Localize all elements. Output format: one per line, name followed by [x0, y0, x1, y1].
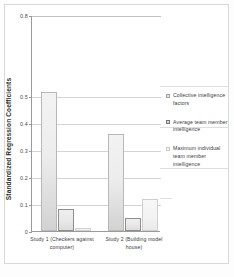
ytick-label-0.5: 0.5 [20, 94, 28, 100]
legend-label-maximum: Maximum individual team member intellige… [173, 145, 220, 167]
tick-0.1 [29, 205, 32, 206]
scan-rule-1 [160, 86, 228, 87]
legend-item-average-member-intelligence: Average team member intelligence [166, 119, 228, 135]
category-label-study2-line1: Study 2 (Building model [100, 236, 168, 244]
bar-study2-collective-intelligence [108, 134, 124, 231]
ytick-label-0.4: 0.4 [20, 121, 28, 127]
tick-0 [29, 232, 32, 233]
bar-study2-maximum-member-intelligence [142, 199, 158, 231]
legend-item-collective-intelligence: Collective intelligence factors [166, 92, 228, 108]
ytick-label-0.2: 0.2 [20, 175, 28, 181]
category-label-study1-line1: Study 1 (Checkers against [28, 236, 96, 244]
bar-study1-collective-intelligence [41, 92, 57, 231]
bar-study1-maximum-member-intelligence [75, 228, 91, 231]
legend-swatch-icon-maximum [166, 147, 170, 151]
legend-swatch-icon-average [166, 120, 170, 124]
category-label-study2: Study 2 (Building model house) [100, 236, 168, 251]
legend-label-collective: Collective intelligence factors [173, 92, 225, 106]
y-axis-title: Standardized Regression Coefficients [5, 77, 12, 199]
ytick-label-0.8: 0.8 [20, 13, 28, 19]
tick-0.4 [29, 124, 32, 125]
category-label-study2-line2: house) [100, 244, 168, 252]
tick-0.2 [29, 178, 32, 179]
plot-area: 0.8 0.5 0.4 0.3 0.2 0.1 0 [31, 16, 160, 232]
chart-legend: Collective intelligence factors Average … [166, 92, 228, 180]
legend-item-maximum-member-intelligence: Maximum individual team member intellige… [166, 145, 228, 168]
gridline-0.8 [32, 16, 161, 17]
category-label-study1-line2: computer) [28, 244, 96, 252]
bar-study2-average-member-intelligence [125, 218, 141, 232]
scan-rule-4 [160, 198, 172, 199]
category-label-study1: Study 1 (Checkers against computer) [28, 236, 96, 251]
tick-0.5 [29, 97, 32, 98]
tick-0.8 [29, 16, 32, 17]
legend-swatch-icon-collective [166, 94, 170, 98]
tick-0.3 [29, 151, 32, 152]
legend-label-average: Average team member intelligence [173, 119, 228, 133]
chart-figure: Standardized Regression Coefficients 0.8… [0, 0, 234, 277]
bar-study1-average-member-intelligence [58, 209, 74, 231]
ytick-label-0.3: 0.3 [20, 148, 28, 154]
ytick-label-0.1: 0.1 [20, 202, 28, 208]
ytick-label-0: 0 [25, 229, 28, 235]
